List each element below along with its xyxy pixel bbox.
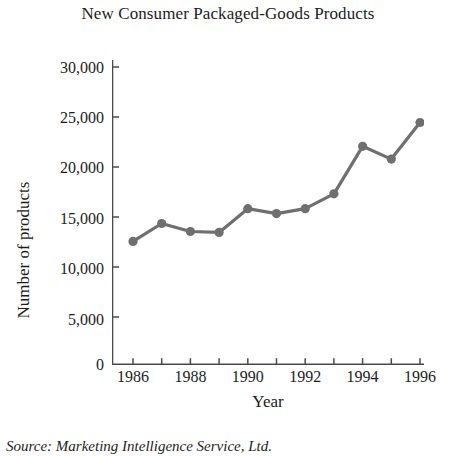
y-tick-label: 5,000: [32, 312, 104, 328]
x-tick-label: 1986: [103, 368, 163, 386]
data-point: [301, 204, 310, 213]
x-tick-label: 1988: [160, 368, 220, 386]
data-point: [157, 219, 166, 228]
source-note: Source: Marketing Intelligence Service, …: [6, 438, 272, 455]
y-tick-label: 30,000: [32, 60, 104, 76]
x-axis-title: Year: [112, 392, 424, 412]
x-tick-label: 1994: [333, 368, 393, 386]
y-tick-label: 0: [32, 357, 104, 373]
y-tick-label: 25,000: [32, 110, 104, 126]
data-point: [272, 209, 281, 218]
data-point: [387, 155, 396, 164]
x-tick-label: 1992: [275, 368, 335, 386]
chart-svg: [112, 60, 424, 365]
x-axis-tick-labels: 198619881990199219941996: [112, 368, 442, 390]
y-tick-label: 10,000: [32, 261, 104, 277]
data-point: [186, 227, 195, 236]
chart-figure: New Consumer Packaged-Goods Products 30,…: [0, 0, 456, 456]
y-tick-label: 20,000: [32, 160, 104, 176]
data-point: [128, 237, 137, 246]
data-line: [133, 123, 420, 242]
x-tick-label: 1996: [390, 368, 450, 386]
x-tick-label: 1990: [218, 368, 278, 386]
chart-title: New Consumer Packaged-Goods Products: [0, 4, 456, 24]
y-axis-tick-labels: 30,000 25,000 20,000 15,000 10,000 5,000…: [28, 60, 104, 365]
plot-area: [112, 60, 424, 365]
y-axis-title: Number of products: [14, 140, 34, 360]
data-point: [243, 204, 252, 213]
data-point: [215, 228, 224, 237]
data-point: [329, 189, 338, 198]
y-tick-label: 15,000: [32, 211, 104, 227]
data-point: [358, 142, 367, 151]
